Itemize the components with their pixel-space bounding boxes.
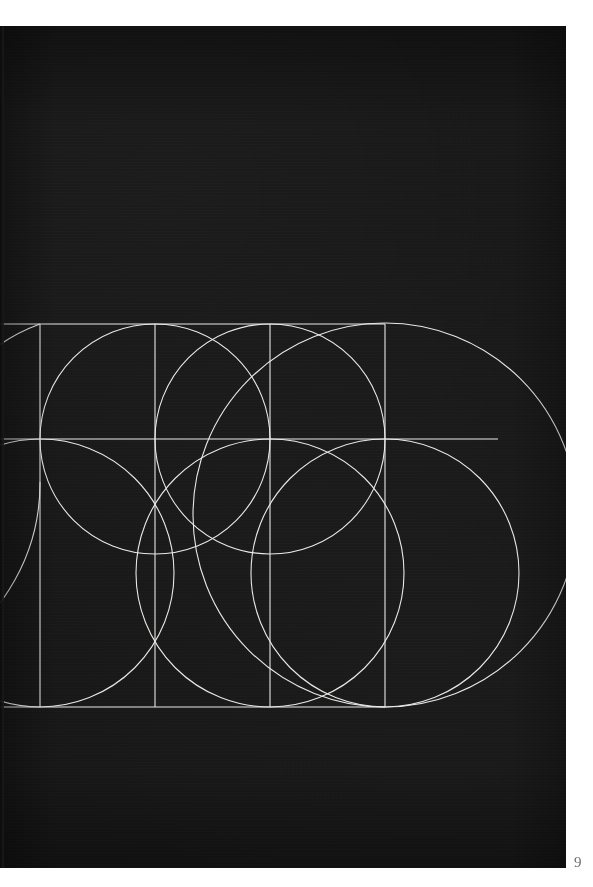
construction-diagram <box>0 26 566 868</box>
arc-left-inner <box>0 482 40 664</box>
page-root: 9 Geometric letterform construction grid <box>0 0 593 887</box>
construction-geometry <box>0 323 566 707</box>
scan-left-edge <box>0 26 4 868</box>
figure-plate <box>0 26 566 868</box>
arc-left-outer <box>0 324 40 482</box>
circle-lower-left <box>0 439 174 707</box>
page-folio: 9 <box>574 851 593 873</box>
